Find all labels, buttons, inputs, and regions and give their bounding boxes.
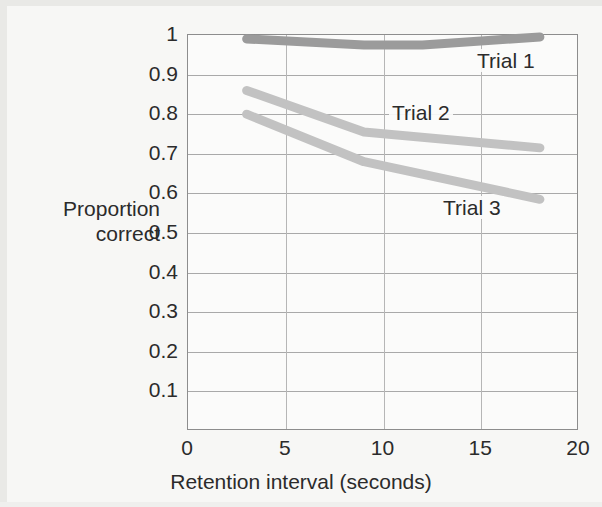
y-axis-tick-label: 0.1 [149,379,178,400]
y-axis-tick-label: 0.5 [149,221,178,242]
y-axis-tick-label: 0.7 [149,142,178,163]
y-axis-tick-labels: 0.10.20.30.40.50.60.70.80.91 [110,0,178,507]
y-axis-tick-label: 0.6 [149,181,178,202]
series-label-trial-3: Trial 3 [440,196,504,219]
x-axis-tick-label: 0 [181,437,193,458]
series-label-trial-2: Trial 2 [389,101,453,124]
scan-edge-left [0,0,7,507]
scan-edge-bottom [0,502,602,507]
x-axis-title: Retention interval (seconds) [0,470,602,494]
plot-area [187,34,578,430]
series-line-trial-1 [247,37,540,45]
x-axis-tick-label: 15 [469,437,492,458]
y-axis-tick-label: 0.2 [149,340,178,361]
data-series-layer [188,35,579,431]
y-axis-tick-label: 0.8 [149,102,178,123]
x-axis-tick-label: 5 [279,437,291,458]
y-axis-tick-label: 0.9 [149,63,178,84]
series-line-trial-3 [247,114,540,199]
series-label-trial-1: Trial 1 [474,49,538,72]
x-axis-tick-label: 10 [371,437,394,458]
y-axis-tick-label: 1 [166,23,178,44]
y-axis-tick-label: 0.3 [149,300,178,321]
y-axis-tick-label: 0.4 [149,261,178,282]
x-axis-tick-label: 20 [566,437,589,458]
scan-edge-top [0,0,602,6]
chart-figure: Proportion correct 0.10.20.30.40.50.60.7… [0,0,602,507]
